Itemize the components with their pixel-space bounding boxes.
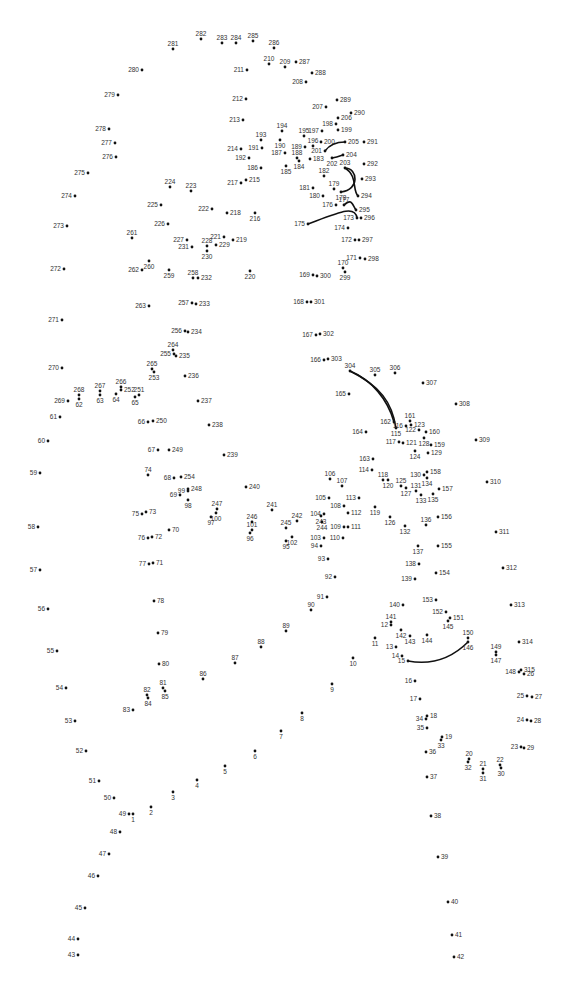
dot-295[interactable]: 295 — [355, 206, 371, 213]
dot-marker[interactable] — [74, 720, 77, 723]
dot-marker[interactable] — [323, 359, 326, 362]
dot-42[interactable]: 42 — [453, 953, 465, 960]
dot-marker[interactable] — [426, 477, 429, 480]
dot-303[interactable]: 303 — [327, 355, 343, 362]
dot-231[interactable]: 231 — [178, 243, 193, 250]
dot-305[interactable]: 305 — [370, 366, 381, 377]
dot-125[interactable]: 125 — [396, 477, 407, 488]
dot-313[interactable]: 313 — [510, 601, 526, 608]
dot-marker[interactable] — [486, 481, 489, 484]
dot-196[interactable]: 196 — [308, 137, 319, 148]
dot-marker[interactable] — [168, 449, 171, 452]
dot-marker[interactable] — [343, 526, 346, 529]
dot-58[interactable]: 58 — [28, 523, 40, 530]
dot-marker[interactable] — [113, 797, 116, 800]
dot-181[interactable]: 181 — [299, 184, 314, 191]
dot-marker[interactable] — [221, 42, 224, 45]
dot-17[interactable]: 17 — [410, 695, 422, 702]
dot-marker[interactable] — [226, 212, 229, 215]
dot-marker[interactable] — [409, 635, 412, 638]
dot-272[interactable]: 272 — [50, 265, 65, 272]
dot-marker[interactable] — [148, 260, 151, 263]
dot-marker[interactable] — [495, 651, 498, 654]
dot-44[interactable]: 44 — [68, 935, 80, 942]
dot-238[interactable]: 238 — [208, 421, 224, 428]
dot-227[interactable]: 227 — [173, 236, 188, 243]
dot-152[interactable]: 152 — [432, 608, 447, 615]
dot-198[interactable]: 198 — [322, 120, 337, 127]
dot-marker[interactable] — [389, 516, 392, 519]
dot-113[interactable]: 113 — [346, 494, 361, 501]
dot-marker[interactable] — [340, 191, 343, 194]
dot-67[interactable]: 67 — [148, 446, 160, 453]
dot-marker[interactable] — [499, 764, 502, 767]
dot-marker[interactable] — [387, 479, 390, 482]
dot-15[interactable]: 15 — [398, 657, 410, 664]
dot-marker[interactable] — [390, 624, 393, 627]
dot-marker[interactable] — [495, 654, 498, 657]
dot-194[interactable]: 194 — [277, 122, 288, 133]
dot-marker[interactable] — [147, 474, 150, 477]
dot-marker[interactable] — [418, 429, 421, 432]
dot-128[interactable]: 128 — [419, 437, 430, 447]
dot-163[interactable]: 163 — [359, 455, 374, 462]
dot-38[interactable]: 38 — [430, 812, 442, 819]
dot-marker[interactable] — [134, 396, 137, 399]
dot-271[interactable]: 271 — [48, 316, 63, 323]
dot-marker[interactable] — [148, 305, 151, 308]
dot-132[interactable]: 132 — [400, 525, 411, 535]
dot-1[interactable]: 1 — [131, 813, 135, 823]
dot-192[interactable]: 192 — [235, 154, 250, 161]
dot-29[interactable]: 29 — [523, 744, 535, 751]
dot-marker[interactable] — [409, 420, 412, 423]
dot-37[interactable]: 37 — [426, 773, 438, 780]
dot-marker[interactable] — [430, 815, 433, 818]
dot-39[interactable]: 39 — [437, 853, 449, 860]
dot-marker[interactable] — [39, 472, 42, 475]
dot-160[interactable]: 160 — [425, 428, 441, 435]
dot-282[interactable]: 282 — [196, 30, 207, 41]
dot-9[interactable]: 9 — [330, 683, 334, 693]
dot-marker[interactable] — [147, 697, 150, 700]
dot-226[interactable]: 226 — [154, 220, 169, 227]
dot-marker[interactable] — [425, 718, 428, 721]
dot-240[interactable]: 240 — [245, 483, 261, 490]
dot-marker[interactable] — [334, 576, 337, 579]
dot-marker[interactable] — [438, 488, 441, 491]
dot-marker[interactable] — [260, 139, 263, 142]
dot-63[interactable]: 63 — [96, 394, 104, 404]
dot-marker[interactable] — [312, 187, 315, 190]
dot-16[interactable]: 16 — [405, 677, 417, 684]
dot-marker[interactable] — [59, 416, 62, 419]
dot-263[interactable]: 263 — [135, 302, 150, 309]
dot-marker[interactable] — [167, 223, 170, 226]
dot-marker[interactable] — [208, 424, 211, 427]
dot-marker[interactable] — [307, 223, 310, 226]
dot-90[interactable]: 90 — [307, 601, 315, 612]
dot-275[interactable]: 275 — [74, 169, 89, 176]
dot-marker[interactable] — [342, 154, 345, 157]
dot-marker[interactable] — [216, 508, 219, 511]
dot-marker[interactable] — [242, 119, 245, 122]
dot-293[interactable]: 293 — [361, 175, 377, 182]
dot-marker[interactable] — [327, 558, 330, 561]
dot-7[interactable]: 7 — [279, 730, 283, 740]
dot-marker[interactable] — [84, 907, 87, 910]
dot-marker[interactable] — [358, 239, 361, 242]
dot-marker[interactable] — [120, 386, 123, 389]
dot-229[interactable]: 229 — [215, 241, 231, 248]
dot-80[interactable]: 80 — [158, 660, 170, 667]
dot-50[interactable]: 50 — [104, 794, 116, 801]
dot-marker[interactable] — [323, 537, 326, 540]
dot-marker[interactable] — [402, 442, 405, 445]
dot-marker[interactable] — [518, 641, 521, 644]
dot-marker[interactable] — [148, 563, 151, 566]
dot-marker[interactable] — [153, 371, 156, 374]
dot-marker[interactable] — [215, 512, 218, 515]
dot-213[interactable]: 213 — [229, 116, 244, 123]
dot-marker[interactable] — [356, 217, 359, 220]
dot-259[interactable]: 259 — [164, 269, 175, 279]
dot-marker[interactable] — [268, 63, 271, 66]
dot-107[interactable]: 107 — [337, 477, 348, 488]
dot-257[interactable]: 257 — [178, 299, 193, 306]
